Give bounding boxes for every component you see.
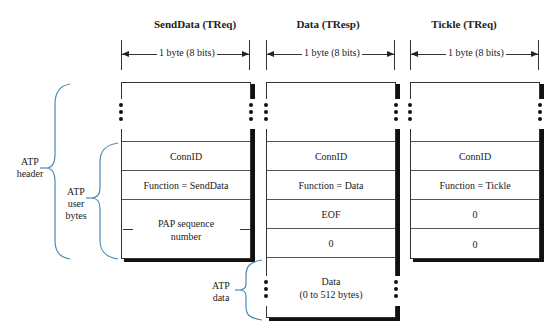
atp-data-label: ATP data <box>206 280 236 304</box>
atp-header-label: ATP header <box>14 156 46 180</box>
atp-user-bytes-label: ATP user bytes <box>62 186 90 222</box>
brace-lines <box>0 0 559 330</box>
